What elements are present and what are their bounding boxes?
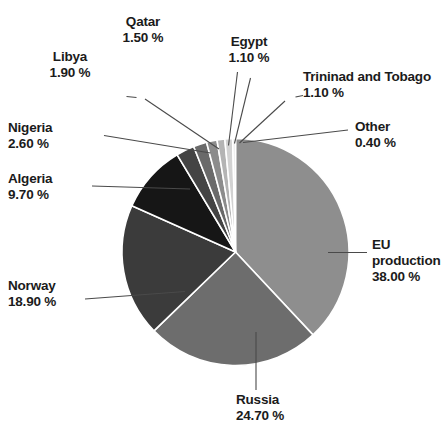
leader-line-libya: [145, 99, 219, 149]
label-algeria-name: Algeria: [8, 171, 52, 186]
label-qatar: Qatar 1.50 %: [88, 14, 198, 46]
label-trinidad: Trininad and Tobago 1.10 %: [303, 69, 431, 101]
label-eu-name2: production: [372, 253, 441, 269]
label-eu-production: EU production 38.00 %: [372, 237, 441, 285]
label-libya-value: 1.90 %: [18, 65, 122, 81]
label-egypt-value: 1.10 %: [199, 50, 299, 66]
label-trinidad-name: Trininad and Tobago: [303, 69, 431, 84]
label-qatar-value: 1.50 %: [88, 30, 198, 46]
label-egypt-name: Egypt: [231, 34, 268, 49]
label-norway-value: 18.90 %: [8, 294, 56, 310]
label-other-name: Other: [355, 119, 390, 134]
label-norway: Norway 18.90 %: [8, 278, 56, 310]
label-algeria: Algeria 9.70 %: [8, 171, 52, 203]
label-eu-name: EU: [372, 237, 390, 252]
leader-line-other: [243, 130, 348, 143]
label-norway-name: Norway: [8, 278, 56, 293]
leader-line-nigeria: [104, 136, 211, 154]
label-nigeria-value: 2.60 %: [8, 136, 52, 152]
label-qatar-name: Qatar: [126, 14, 160, 29]
leader-line-egypt: [235, 78, 251, 144]
label-other: Other 0.40 %: [355, 119, 396, 151]
leader-line-trinidad-tick: [296, 96, 304, 98]
label-algeria-value: 9.70 %: [8, 187, 52, 203]
label-russia-value: 24.70 %: [236, 408, 284, 424]
pie-slices: [122, 139, 349, 366]
leader-line-trinidad: [240, 101, 286, 143]
label-nigeria: Nigeria 2.60 %: [8, 120, 52, 152]
label-egypt: Egypt 1.10 %: [199, 34, 299, 66]
label-russia: Russia 24.70 %: [236, 392, 284, 424]
label-nigeria-name: Nigeria: [8, 120, 52, 135]
label-eu-value: 38.00 %: [372, 269, 441, 285]
label-other-value: 0.40 %: [355, 135, 396, 151]
leader-line-libya-tick: [127, 97, 137, 98]
label-russia-name: Russia: [236, 392, 279, 407]
label-libya-name: Libya: [53, 49, 87, 64]
label-trinidad-value: 1.10 %: [303, 85, 431, 101]
label-libya: Libya 1.90 %: [18, 49, 122, 81]
